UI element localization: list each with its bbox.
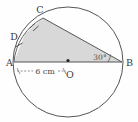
point-label-C: C: [36, 4, 43, 15]
radius-measurement-label: 6 cm: [35, 67, 55, 76]
point-label-D: D: [10, 31, 18, 42]
center-label-O: O: [66, 69, 74, 80]
point-label-B: B: [126, 57, 133, 68]
point-label-A: A: [5, 57, 13, 68]
angle-measurement-label: 30°: [93, 53, 107, 62]
geometry-figure: A B C D O 6 cm 30°: [0, 0, 138, 122]
center-point-dot: [66, 59, 69, 62]
geometry-diagram: A B C D O 6 cm 30°: [0, 0, 138, 122]
